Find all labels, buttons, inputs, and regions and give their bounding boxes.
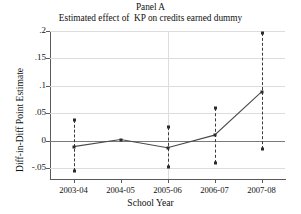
confidence-interval-cap bbox=[214, 162, 217, 165]
y-axis-tick-label: .15 bbox=[2, 53, 46, 62]
confidence-interval-cap bbox=[73, 119, 76, 122]
x-axis-tick-label: 2006-07 bbox=[200, 185, 229, 195]
x-axis-tick-label: 2003-04 bbox=[59, 185, 88, 195]
confidence-interval-cap bbox=[167, 126, 170, 129]
x-axis-tick bbox=[262, 179, 263, 183]
x-axis-tick bbox=[215, 179, 216, 183]
data-point-marker bbox=[166, 146, 169, 149]
confidence-interval-cap bbox=[167, 166, 170, 169]
y-axis-tick-label: -.05 bbox=[2, 163, 46, 172]
x-axis-tick bbox=[74, 179, 75, 183]
x-axis-tick-label: 2007-08 bbox=[247, 185, 276, 195]
confidence-interval-cap bbox=[73, 169, 76, 172]
x-axis-tick-label: 2005-06 bbox=[153, 185, 182, 195]
y-axis-tick-label: 0 bbox=[2, 136, 46, 145]
confidence-interval-cap bbox=[261, 31, 264, 34]
y-axis-labels: -.050.05.1.15.2 bbox=[0, 0, 46, 214]
data-point-marker bbox=[72, 145, 75, 148]
confidence-interval-cap bbox=[261, 147, 264, 150]
data-point-marker bbox=[260, 90, 263, 93]
x-axis-tick bbox=[168, 179, 169, 183]
y-axis-tick-label: .2 bbox=[2, 26, 46, 35]
chart-panel-a: Panel A Estimated effect of KP on credit… bbox=[0, 0, 301, 214]
plot-area bbox=[50, 31, 285, 179]
y-axis-tick-label: .1 bbox=[2, 81, 46, 90]
data-point-marker bbox=[213, 134, 216, 137]
x-axis-tick-label: 2004-05 bbox=[106, 185, 135, 195]
confidence-interval-cap bbox=[214, 106, 217, 109]
y-axis-tick-label: .05 bbox=[2, 108, 46, 117]
x-axis-tick bbox=[121, 179, 122, 183]
data-point-marker bbox=[119, 138, 122, 141]
